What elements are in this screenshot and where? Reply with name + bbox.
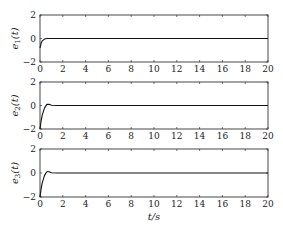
x-tick-label: 4 bbox=[83, 131, 89, 141]
y-tick-label: 0 bbox=[30, 101, 36, 111]
y-tick-label: 2 bbox=[30, 10, 36, 20]
x-tick-label: 12 bbox=[171, 199, 182, 209]
x-tick-label: 18 bbox=[239, 199, 251, 209]
x-tick-label: 10 bbox=[148, 199, 160, 209]
y-tick-label: 2 bbox=[30, 77, 36, 87]
series-line-e2 bbox=[40, 104, 268, 129]
x-tick-label: 16 bbox=[217, 131, 229, 141]
x-axis-label: t/s bbox=[148, 211, 161, 222]
x-tick-label: 0 bbox=[37, 64, 43, 74]
y-tick-label: −2 bbox=[23, 57, 36, 67]
series-line-e1 bbox=[40, 39, 268, 48]
y-tick-label: −2 bbox=[23, 192, 36, 202]
x-tick-label: 20 bbox=[262, 199, 274, 209]
x-tick-label: 18 bbox=[239, 131, 251, 141]
x-tick-label: 10 bbox=[148, 64, 160, 74]
y-tick-label: 2 bbox=[30, 144, 36, 154]
x-tick-label: 4 bbox=[83, 199, 89, 209]
y-tick-label: −2 bbox=[23, 124, 36, 134]
x-tick-label: 6 bbox=[106, 199, 112, 209]
x-tick-label: 16 bbox=[217, 199, 229, 209]
x-tick-label: 12 bbox=[171, 64, 182, 74]
x-tick-label: 10 bbox=[148, 131, 160, 141]
x-tick-label: 16 bbox=[217, 64, 229, 74]
series-line-e3 bbox=[40, 172, 268, 197]
x-tick-label: 6 bbox=[106, 131, 112, 141]
x-tick-label: 14 bbox=[194, 199, 206, 209]
y-tick-label: 0 bbox=[30, 34, 36, 44]
x-tick-label: 20 bbox=[262, 64, 274, 74]
x-tick-label: 2 bbox=[60, 131, 66, 141]
x-tick-label: 8 bbox=[128, 64, 134, 74]
subplot-3: 02468101214161820−202e3(t)t/s bbox=[9, 144, 274, 222]
x-tick-label: 2 bbox=[60, 64, 66, 74]
x-tick-label: 0 bbox=[37, 131, 43, 141]
x-tick-label: 14 bbox=[194, 64, 206, 74]
subplot-2: 02468101214161820−202e2(t) bbox=[9, 77, 274, 141]
y-axis-label: e3(t) bbox=[9, 162, 22, 184]
x-tick-label: 4 bbox=[83, 64, 89, 74]
x-tick-label: 20 bbox=[262, 131, 274, 141]
x-tick-label: 8 bbox=[128, 199, 134, 209]
x-tick-label: 8 bbox=[128, 131, 134, 141]
x-tick-label: 14 bbox=[194, 131, 206, 141]
chart-figure: 02468101214161820−202e1(t)02468101214161… bbox=[0, 0, 283, 231]
y-axis-label: e1(t) bbox=[9, 27, 22, 49]
x-tick-label: 6 bbox=[106, 64, 112, 74]
x-tick-label: 0 bbox=[37, 199, 43, 209]
y-tick-label: 0 bbox=[30, 168, 36, 178]
subplot-1: 02468101214161820−202e1(t) bbox=[9, 10, 274, 74]
y-axis-label: e2(t) bbox=[9, 94, 22, 116]
x-tick-label: 2 bbox=[60, 199, 66, 209]
x-tick-label: 12 bbox=[171, 131, 182, 141]
x-tick-label: 18 bbox=[239, 64, 251, 74]
